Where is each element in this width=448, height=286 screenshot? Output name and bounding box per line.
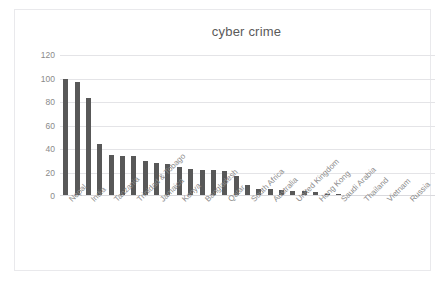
y-axis-tick-60: 60 xyxy=(15,121,55,130)
y-axis-tick-0: 0 xyxy=(15,192,55,201)
plot-area xyxy=(60,55,435,196)
bar xyxy=(86,98,91,196)
y-axis-tick-80: 80 xyxy=(15,98,55,107)
bar xyxy=(63,79,68,197)
y-axis-tick-40: 40 xyxy=(15,145,55,154)
bar-series xyxy=(60,55,435,196)
bar xyxy=(109,155,114,196)
chart-title: cyber crime xyxy=(15,24,430,39)
chart-container: cyber crime 020406080100120 NepalIndiaTa… xyxy=(14,9,431,271)
screenshot-root: cyber crime 020406080100120 NepalIndiaTa… xyxy=(0,0,448,286)
y-axis-tick-labels: 020406080100120 xyxy=(15,55,55,196)
y-axis-tick-100: 100 xyxy=(15,74,55,83)
x-axis-tick-labels: NepalIndiaTanzaniaTrinidad & TobagoJamai… xyxy=(60,198,435,278)
bar xyxy=(200,170,205,196)
y-axis-tick-120: 120 xyxy=(15,51,55,60)
bar xyxy=(75,82,80,196)
y-axis-tick-20: 20 xyxy=(15,168,55,177)
